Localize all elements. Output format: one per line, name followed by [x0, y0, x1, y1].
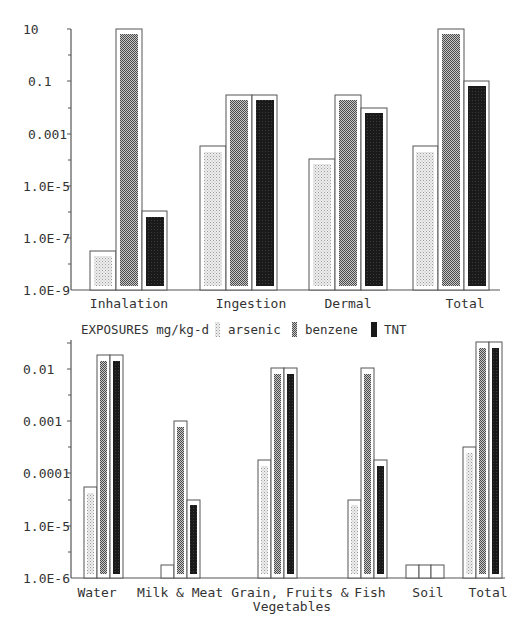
bottom-category-label: Water — [77, 585, 116, 600]
bar-benzene — [419, 565, 431, 578]
bar-tnt — [431, 565, 444, 578]
bar-group-grain-fruits-vegetables — [258, 368, 297, 578]
bar-group-water — [84, 355, 123, 578]
bottom-category-label: Total — [468, 585, 507, 600]
top-y-tick-label: 1.0E-7 — [23, 231, 70, 246]
bar-group-fish — [348, 368, 387, 578]
bar-group-total — [463, 342, 502, 578]
bottom-y-tick-label: 0.0001 — [23, 466, 70, 481]
bottom-y-tick-label: 0.01 — [23, 362, 54, 377]
bottom-category-label: Grain, Fruits & — [231, 585, 349, 600]
bottom-y-tick-label: 0.001 — [23, 414, 62, 429]
top-y-tick-label: 0.1 — [28, 74, 51, 89]
bar-arsenic — [161, 565, 174, 578]
top-category-label: Ingestion — [216, 296, 286, 311]
bottom-chart: 0.01 0.001 0.0001 1.0E-5 1.0E-6 — [23, 340, 508, 614]
bar-group-soil — [406, 565, 444, 578]
legend: EXPOSURES mg/kg-d arsenic benzene TNT — [81, 322, 407, 337]
top-y-tick-label: 1.0E-9 — [23, 283, 70, 298]
top-chart: 10 0.1 0.001 1.0E-5 1.0E-7 1.0E-9 — [23, 22, 500, 311]
top-category-label: Dermal — [325, 296, 372, 311]
legend-title: EXPOSURES mg/kg-d — [81, 322, 209, 337]
legend-label-benzene: benzene — [305, 322, 358, 337]
top-category-label: Inhalation — [90, 296, 168, 311]
bar-arsenic — [406, 565, 419, 578]
top-y-tick-label: 0.001 — [28, 127, 67, 142]
bar-group-inhalation — [90, 29, 167, 290]
bar-group-dermal — [309, 95, 387, 290]
exposure-chart-figure: 10 0.1 0.001 1.0E-5 1.0E-7 1.0E-9 — [0, 0, 525, 626]
legend-swatch-tnt — [371, 322, 377, 337]
top-y-tick-label: 10 — [23, 22, 39, 37]
legend-label-tnt: TNT — [384, 322, 407, 337]
bottom-y-tick-label: 1.0E-6 — [23, 571, 70, 586]
bottom-category-label-line2: Vegetables — [253, 599, 331, 614]
top-y-tick-label: 1.0E-5 — [23, 179, 70, 194]
bar-group-ingestion — [200, 95, 277, 290]
bottom-category-label: Fish — [354, 585, 385, 600]
legend-swatch-benzene — [292, 322, 297, 337]
bar-group-total — [413, 29, 489, 290]
legend-label-arsenic: arsenic — [228, 322, 281, 337]
bottom-category-label: Soil — [412, 585, 443, 600]
top-category-label: Total — [445, 296, 484, 311]
bar-group-milk-meat — [161, 421, 200, 578]
bottom-category-label: Milk & Meat — [137, 585, 223, 600]
legend-swatch-arsenic — [215, 322, 220, 337]
bottom-y-tick-label: 1.0E-5 — [23, 519, 70, 534]
